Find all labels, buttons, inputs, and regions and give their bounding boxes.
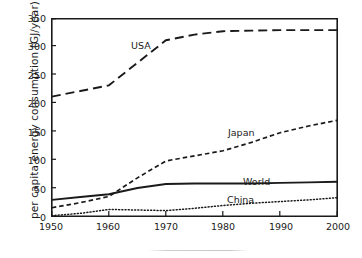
- series-line-world: [52, 182, 337, 200]
- chart-figure: per capita energy consumption (GJ/year) …: [0, 0, 362, 258]
- x-tick-label-2000: 2000: [315, 222, 361, 232]
- x-tick-label-1950: 1950: [28, 222, 74, 232]
- y-tick-label-300: 300: [6, 42, 46, 52]
- series-label-usa: USA: [131, 41, 151, 51]
- y-tick-label-100: 100: [6, 156, 46, 166]
- axis-spines: [51, 18, 338, 217]
- x-tick-label-1970: 1970: [143, 222, 189, 232]
- x-tick-label-1990: 1990: [258, 222, 304, 232]
- series-line-china: [52, 198, 337, 216]
- x-tick-label-1960: 1960: [85, 222, 131, 232]
- y-tick-label-50: 50: [6, 185, 46, 195]
- series-line-usa: [52, 30, 337, 97]
- y-tick-label-200: 200: [6, 99, 46, 109]
- x-tick-label-1980: 1980: [200, 222, 246, 232]
- y-tick-label-150: 150: [6, 128, 46, 138]
- y-tick-label-250: 250: [6, 71, 46, 81]
- chart-svg: [51, 18, 338, 217]
- series-label-world: World: [243, 177, 270, 187]
- series-line-japan: [52, 120, 337, 207]
- plot-area: [51, 18, 338, 217]
- scan-artifact-line: [148, 250, 248, 251]
- y-tick-label-350: 350: [6, 14, 46, 24]
- series-label-china: China: [227, 195, 254, 205]
- series-label-japan: Japan: [228, 128, 255, 138]
